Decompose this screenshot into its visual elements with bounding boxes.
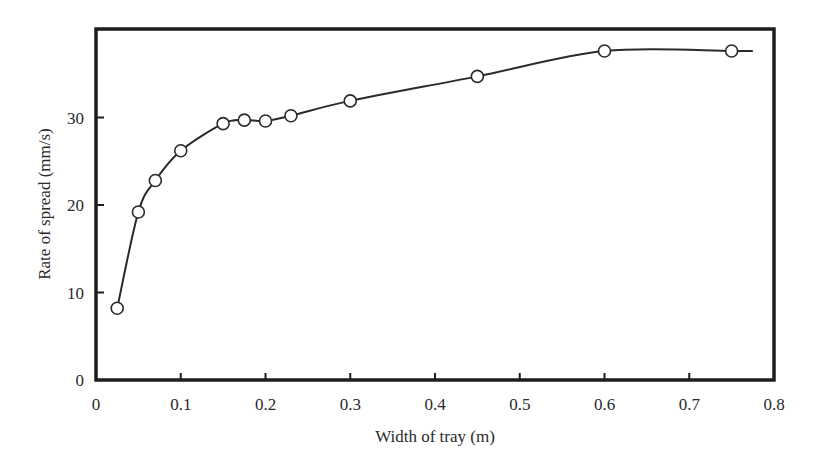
x-tick-label: 0.8 — [763, 395, 784, 414]
data-point-marker — [471, 70, 483, 82]
data-point-marker — [217, 118, 229, 130]
series-rate-of-spread — [111, 45, 753, 314]
y-tick-label: 0 — [76, 371, 85, 390]
y-tick-label: 10 — [67, 284, 84, 303]
data-point-marker — [149, 175, 161, 187]
x-axis-title: Width of tray (m) — [375, 427, 495, 446]
x-tick-label: 0.5 — [509, 395, 530, 414]
data-point-marker — [260, 115, 272, 127]
series-line — [117, 49, 753, 308]
y-axis-title: Rate of spread (mm/s) — [35, 128, 54, 280]
chart-canvas: 00.10.20.30.40.50.60.70.8 0102030 Width … — [0, 0, 820, 466]
data-point-marker — [344, 95, 356, 107]
data-point-marker — [726, 45, 738, 57]
data-point-marker — [285, 110, 297, 122]
x-tick-label: 0.1 — [170, 395, 191, 414]
data-point-marker — [599, 45, 611, 57]
y-tick-label: 30 — [67, 109, 84, 128]
x-tick-label: 0.3 — [340, 395, 361, 414]
y-tick-label: 20 — [67, 196, 84, 215]
plot-frame — [96, 29, 774, 380]
plot-border — [96, 29, 774, 380]
x-tick-label: 0.7 — [679, 395, 701, 414]
x-tick-label: 0 — [92, 395, 101, 414]
data-point-marker — [238, 114, 250, 126]
y-axis-ticks: 0102030 — [67, 109, 104, 391]
x-tick-label: 0.6 — [594, 395, 615, 414]
x-tick-label: 0.2 — [255, 395, 276, 414]
x-tick-label: 0.4 — [424, 395, 446, 414]
data-point-marker — [175, 145, 187, 157]
line-chart: 00.10.20.30.40.50.60.70.8 0102030 Width … — [0, 0, 820, 466]
data-point-marker — [111, 302, 123, 314]
data-point-marker — [132, 206, 144, 218]
